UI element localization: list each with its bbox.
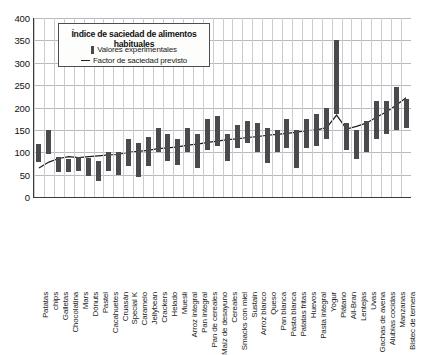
y-axis-tick-label: 400: [0, 13, 30, 24]
range-bar: [165, 134, 170, 161]
gridline-vertical: [302, 18, 303, 197]
gridline-vertical: [332, 18, 333, 197]
range-bar: [344, 123, 349, 150]
gridline-vertical: [361, 18, 362, 197]
gridline-vertical: [223, 18, 224, 197]
x-axis-tick-label: Mars: [81, 292, 90, 309]
y-axis-tick-label: 0: [0, 192, 30, 203]
x-axis-tick-label: Galletas: [61, 292, 70, 320]
range-bar: [106, 152, 111, 171]
line-swatch-icon: [81, 60, 90, 61]
x-axis-tick-label: Muesli: [180, 292, 189, 314]
gridline-vertical: [242, 18, 243, 197]
range-bar: [354, 130, 359, 159]
range-bar: [146, 137, 151, 166]
gridline-vertical: [232, 18, 233, 197]
y-axis-tick-label: 300: [0, 57, 30, 68]
x-axis-tick-label: Caramelo: [140, 292, 149, 325]
x-axis-tick-label: Sustain: [250, 292, 259, 318]
legend-item-experimental: Valores experimentales: [59, 45, 209, 54]
x-axis-tick-label: Lentejas: [359, 292, 368, 321]
range-bar: [304, 119, 309, 148]
x-axis-tick-label: Smacks con miel: [240, 292, 249, 350]
gridline-vertical: [272, 18, 273, 197]
legend-label-predicted: Factor de saciedad previsto: [93, 56, 187, 65]
x-axis-tick-label: Manzanas: [398, 292, 407, 328]
range-bar: [384, 101, 389, 135]
gridline-vertical: [213, 18, 214, 197]
range-bar: [195, 134, 200, 168]
x-axis-tick-label: Pastel: [101, 292, 110, 313]
x-axis-tick-label: Queso: [269, 292, 278, 315]
x-axis-tick-label: Maíz de desayuno: [220, 292, 229, 355]
range-bar: [245, 121, 250, 143]
x-axis-tick-label: Patatas fritas: [299, 292, 308, 337]
range-bar: [235, 125, 240, 147]
y-axis-tick-label: 350: [0, 35, 30, 46]
range-bar: [185, 128, 190, 153]
gridline-vertical: [252, 18, 253, 197]
x-axis-tick-label: Arroz blanco: [259, 292, 268, 335]
gridline-vertical: [391, 18, 392, 197]
legend-item-predicted: Factor de saciedad previsto: [59, 56, 209, 65]
range-bar: [394, 87, 399, 130]
x-axis-tick-label: Pasta blanca: [289, 292, 298, 336]
x-axis-tick-label: Dónuts: [91, 292, 100, 316]
gridline-vertical: [322, 18, 323, 197]
x-axis-tick-label: All-Bran: [349, 292, 358, 319]
range-bar: [215, 116, 220, 145]
x-axis-tick-label: Alubias cocidas: [388, 292, 397, 345]
range-bar: [255, 123, 260, 152]
gridline-vertical: [34, 18, 35, 197]
x-axis-tick-label: Pan blanca: [279, 292, 288, 331]
y-axis-tick-label: 50: [0, 169, 30, 180]
range-bar: [284, 119, 289, 148]
y-axis-tick-label: 200: [0, 102, 30, 113]
y-axis: 050100150200250300350400: [0, 0, 30, 294]
range-bar: [265, 128, 270, 164]
gridline-vertical: [312, 18, 313, 197]
x-axis-tick-label: Patatas: [41, 292, 50, 318]
range-bar: [46, 130, 51, 155]
x-axis-tick-label: Pan integral: [200, 292, 209, 333]
x-axis-tick-label: Cereales: [230, 292, 239, 323]
range-bar: [116, 152, 121, 174]
range-bar: [136, 143, 141, 177]
x-axis-tick-label: Pasta integral: [319, 292, 328, 339]
x-axis-tick-label: Bistec de ternera: [408, 292, 417, 350]
gridline-vertical: [54, 18, 55, 197]
range-bar: [294, 130, 299, 168]
range-bar: [126, 139, 131, 166]
range-bar: [86, 158, 91, 176]
gridline-vertical: [351, 18, 352, 197]
bar-swatch-icon: [91, 46, 94, 54]
gridline-vertical: [401, 18, 402, 197]
x-axis-tick-label: Gachas de avena: [378, 292, 387, 352]
gridline-vertical: [371, 18, 372, 197]
range-bar: [275, 130, 280, 152]
x-axis-tick-label: Uvas: [369, 292, 378, 310]
range-bar: [374, 101, 379, 139]
range-bar: [175, 139, 180, 165]
x-axis-tick-label: Cruasán: [121, 292, 130, 321]
x-axis-tick-label: Plátano: [339, 292, 348, 318]
range-bar: [334, 40, 339, 114]
range-bar: [324, 108, 329, 139]
range-bar: [96, 161, 101, 181]
gridline-vertical: [381, 18, 382, 197]
range-bar: [156, 128, 161, 153]
range-bar: [36, 144, 41, 162]
range-bar: [76, 157, 81, 171]
gridline-vertical: [292, 18, 293, 197]
range-bar: [404, 99, 409, 128]
chart-legend: Índice de saciedad de alimentos habitual…: [58, 23, 210, 67]
gridline-vertical: [282, 18, 283, 197]
gridline-vertical: [44, 18, 45, 197]
range-bar: [66, 159, 71, 172]
range-bar: [225, 134, 230, 161]
x-axis-tick-label: Yogur: [329, 292, 338, 312]
x-axis-tick-label: Helado: [170, 292, 179, 316]
y-axis-tick-label: 100: [0, 147, 30, 158]
range-bar: [56, 157, 61, 173]
